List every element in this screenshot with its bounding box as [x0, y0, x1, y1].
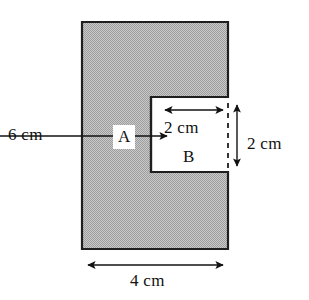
label-notch-width-2cm: 2 cm	[164, 119, 199, 136]
geometry-figure: 6 cm 4 cm 2 cm 2 cm A B	[0, 0, 309, 300]
label-notch-height-2cm: 2 cm	[247, 135, 282, 152]
label-width-4cm: 4 cm	[130, 272, 165, 289]
label-region-a: A	[113, 125, 135, 149]
label-region-b: B	[183, 148, 194, 165]
label-height-6cm: 6 cm	[8, 126, 43, 143]
